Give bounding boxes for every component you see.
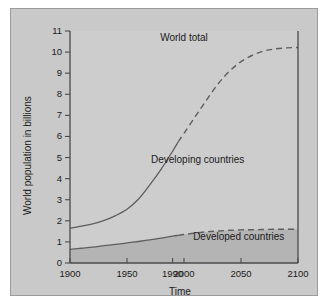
x-tick-label-1900: 1900 [50, 269, 90, 279]
annotation-developed-countries: Developed countries [193, 232, 284, 242]
x-tick-label-2000: 2000 [164, 269, 204, 279]
annotation-developing-countries: Developing countries [151, 155, 244, 165]
x-tick-label-2050: 2050 [221, 269, 261, 279]
y-tick-label-11: 11 [36, 26, 62, 36]
y-tick-label-4: 4 [36, 174, 62, 184]
annotation-world-total: World total [160, 33, 208, 43]
plot-area-background [70, 31, 298, 263]
x-tick-label-1950: 1950 [107, 269, 147, 279]
chart-panel: 01234567891011 190019501990200020502100 … [10, 8, 318, 296]
y-tick-label-9: 9 [36, 68, 62, 78]
y-tick-label-1: 1 [36, 237, 62, 247]
chart-figure: 01234567891011 190019501990200020502100 … [0, 0, 328, 308]
y-axis-title: World population in billions [23, 96, 33, 215]
y-tick-marks [65, 31, 70, 263]
y-tick-label-2: 2 [36, 216, 62, 226]
y-tick-label-7: 7 [36, 110, 62, 120]
x-tick-label-2100: 2100 [278, 269, 318, 279]
y-tick-label-5: 5 [36, 153, 62, 163]
y-tick-label-8: 8 [36, 89, 62, 99]
y-tick-label-10: 10 [36, 47, 62, 57]
y-tick-label-0: 0 [36, 258, 62, 268]
y-tick-label-6: 6 [36, 131, 62, 141]
y-tick-label-3: 3 [36, 195, 62, 205]
x-axis-title: Time [169, 287, 191, 297]
